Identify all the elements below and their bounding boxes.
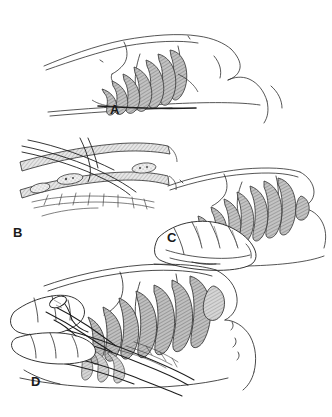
panel-label-c: C [167, 231, 177, 244]
panel-label-a: A [110, 103, 120, 116]
panel-c-hand-on-chest-wall [150, 160, 332, 272]
panel-label-b: B [13, 226, 23, 239]
panel-d-tube-insertion [14, 258, 264, 396]
medical-illustration-figure: A [0, 0, 332, 417]
panel-a-lateral-chest-ribs [28, 16, 328, 131]
panel-label-d: D [31, 375, 41, 388]
